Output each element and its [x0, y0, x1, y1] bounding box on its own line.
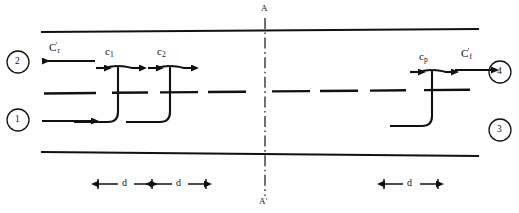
- wall-top: [42, 29, 478, 32]
- station-circles: [7, 51, 511, 141]
- c-2-sub: 2: [162, 50, 166, 59]
- schematic-svg: [0, 0, 519, 213]
- label-c-r-prime: C'r: [49, 42, 60, 55]
- dimension-lines: [98, 179, 438, 189]
- station-number-4: 4: [497, 67, 502, 77]
- dimension-label-1: d: [122, 178, 127, 188]
- flow-branch-c2: [126, 66, 192, 122]
- label-c-f-prime: C'f: [461, 48, 472, 61]
- c-p-sub: p: [424, 55, 428, 64]
- c-r-prime-sub: r: [57, 46, 60, 55]
- label-c-1: c1: [105, 46, 114, 59]
- station-number-2: 2: [15, 57, 20, 67]
- c-1-sub: 1: [110, 50, 114, 59]
- mid-partition: [44, 90, 470, 94]
- flow-branch-cp: [390, 70, 452, 126]
- figure-canvas: A A' 2 1 4 3 C'r c1 c2 cp C'f d d d: [0, 0, 519, 213]
- label-c-p: cp: [419, 51, 428, 64]
- label-c-2: c2: [157, 46, 166, 59]
- wall-bottom: [42, 152, 478, 156]
- dimension-label-3: d: [407, 178, 412, 188]
- dimension-label-2: d: [176, 178, 181, 188]
- c-f-prime-sub: f: [469, 52, 472, 61]
- section-label-bottom: A': [259, 197, 268, 206]
- station-number-1: 1: [15, 115, 20, 125]
- station-number-3: 3: [497, 125, 502, 135]
- section-label-top: A: [261, 4, 268, 13]
